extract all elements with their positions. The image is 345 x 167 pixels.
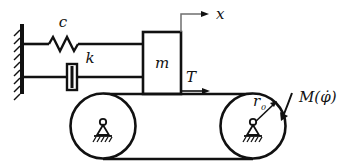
right-pulley: r 0 [221,92,286,159]
mechanical-diagram: c k m x T [0,0,345,167]
mass-label: m [155,54,169,72]
moment-label: M(φ̇) [298,88,337,106]
left-pulley [71,94,136,159]
tension-label: T [186,68,197,86]
spring-label: c [59,13,68,31]
radius-subscript: 0 [261,103,266,112]
mass-block-group: m [143,32,181,94]
x-axis-label: x [216,5,225,23]
radius-label: r [253,92,261,110]
diagram-canvas: c k m x T [0,0,345,167]
damper-label: k [85,49,94,67]
